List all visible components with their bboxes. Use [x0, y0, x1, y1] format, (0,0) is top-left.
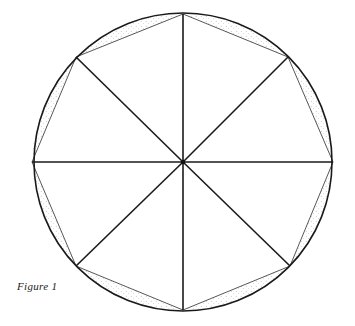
radius-line [183, 162, 290, 266]
octagon-side [76, 14, 183, 57]
center-point [181, 160, 185, 164]
octagon-side [32, 57, 76, 162]
octagon-in-circle-diagram [0, 0, 355, 326]
radius-line [183, 57, 288, 162]
octagon-side [290, 162, 333, 266]
octagon-side [76, 266, 183, 310]
figure-caption: Figure 1 [17, 280, 57, 292]
octagon-side [32, 162, 76, 266]
radius-line [76, 57, 183, 162]
octagon-side [288, 57, 333, 162]
radius-line [76, 162, 183, 266]
octagon-side [183, 266, 290, 310]
octagon-side [183, 14, 288, 57]
